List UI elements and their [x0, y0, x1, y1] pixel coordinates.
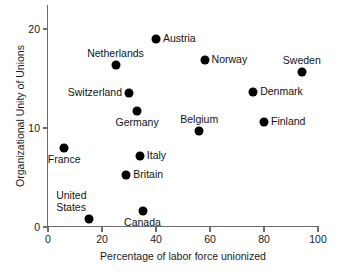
point-label-sweden: Sweden	[283, 55, 321, 67]
data-point-germany[interactable]	[133, 107, 142, 116]
scatter-chart: 02040608010001020 AustriaNorwaySwedenNet…	[0, 0, 337, 273]
data-point-finland[interactable]	[260, 118, 269, 127]
data-point-austria[interactable]	[152, 34, 161, 43]
point-label-finland: Finland	[271, 116, 305, 128]
x-axis-line	[47, 226, 319, 227]
data-point-canada[interactable]	[138, 207, 147, 216]
data-point-switzerland[interactable]	[125, 89, 134, 98]
point-label-austria: Austria	[163, 33, 196, 45]
x-axis-title: Percentage of labor force unionized	[48, 250, 318, 262]
data-point-denmark[interactable]	[249, 88, 258, 97]
y-tick-label-10: 10	[28, 122, 40, 134]
y-tick-0	[43, 226, 48, 227]
x-tick-label-100: 100	[309, 233, 327, 245]
x-tick-100	[317, 227, 318, 232]
x-tick-label-80: 80	[258, 233, 270, 245]
point-label-norway: Norway	[212, 54, 248, 66]
y-axis-title: Organizational Unity of Unions	[14, 5, 28, 227]
x-tick-label-40: 40	[150, 233, 162, 245]
point-label-italy: Italy	[147, 150, 166, 162]
x-tick-label-20: 20	[96, 233, 108, 245]
y-axis-line	[47, 5, 48, 228]
x-tick-label-60: 60	[204, 233, 216, 245]
x-tick-0	[47, 227, 48, 232]
y-tick-label-20: 20	[28, 23, 40, 35]
data-point-italy[interactable]	[135, 151, 144, 160]
x-tick-60	[209, 227, 210, 232]
data-point-belgium[interactable]	[195, 126, 204, 135]
point-label-denmark: Denmark	[260, 87, 303, 99]
data-point-netherlands[interactable]	[111, 60, 120, 69]
x-tick-label-0: 0	[45, 233, 51, 245]
point-label-netherlands: Netherlands	[87, 48, 144, 60]
point-label-switzerland: Switzerland	[68, 88, 122, 100]
point-label-britain: Britain	[133, 169, 163, 181]
data-point-britain[interactable]	[122, 170, 131, 179]
data-point-norway[interactable]	[200, 55, 209, 64]
point-label-united-states: UnitedStates	[56, 190, 86, 213]
data-point-sweden[interactable]	[297, 67, 306, 76]
data-point-france[interactable]	[60, 143, 69, 152]
point-label-canada: Canada	[124, 217, 161, 229]
data-point-united-states[interactable]	[84, 215, 93, 224]
x-tick-80	[263, 227, 264, 232]
point-label-france: France	[48, 154, 81, 166]
y-tick-label-0: 0	[34, 221, 40, 233]
y-tick-20	[43, 28, 48, 29]
x-tick-20	[101, 227, 102, 232]
point-label-germany: Germany	[116, 117, 159, 129]
y-tick-10	[43, 127, 48, 128]
point-label-belgium: Belgium	[180, 114, 218, 126]
